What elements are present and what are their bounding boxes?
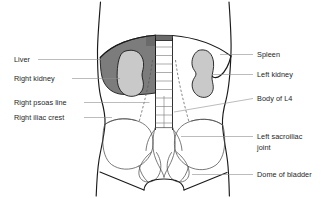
label-dome-of-bladder: Dome of bladder xyxy=(257,170,312,179)
liver-medial-shadow xyxy=(146,35,156,46)
spine-diaphragm-cap xyxy=(156,35,173,40)
label-left-sacroiliac-joint-line1: Left sacroiliac xyxy=(257,132,303,141)
right-body-outline xyxy=(222,2,231,196)
right-iliac-wing xyxy=(103,119,153,169)
left-superior-pubic-ramus xyxy=(180,167,189,183)
right-superior-pubic-ramus xyxy=(139,166,148,182)
pelvic-floor-line-left xyxy=(184,173,227,191)
left-iliac-wing xyxy=(174,119,224,169)
left-obturator-foramen xyxy=(167,152,189,182)
label-right-psoas-line: Right psoas line xyxy=(14,98,67,107)
right-kidney-shape xyxy=(117,50,143,96)
labels-right-group: Spleen Left kidney Body of L4 Left sacro… xyxy=(256,50,312,179)
label-right-iliac-crest: Right iliac crest xyxy=(14,113,64,122)
pelvis-group xyxy=(103,119,225,182)
pelvic-floor-line-right xyxy=(100,172,144,190)
label-left-sacroiliac-joint-line2: joint xyxy=(256,143,271,152)
label-liver: Liver xyxy=(14,55,31,64)
dome-of-bladder xyxy=(144,179,184,190)
left-psoas-line xyxy=(176,60,190,122)
label-left-kidney: Left kidney xyxy=(257,70,293,79)
left-kidney-shape xyxy=(192,50,214,98)
label-right-kidney: Right kidney xyxy=(14,74,55,83)
leader-body-of-l4 xyxy=(174,99,253,113)
label-body-of-l4: Body of L4 xyxy=(257,94,292,103)
anatomy-diagram: Liver Right kidney Right psoas line Righ… xyxy=(0,0,327,198)
diagram-canvas: Liver Right kidney Right psoas line Righ… xyxy=(0,0,327,198)
kidneys-group xyxy=(117,50,214,98)
label-spleen: Spleen xyxy=(257,50,280,59)
sacrum xyxy=(153,128,175,178)
left-iliac-crest xyxy=(192,119,223,125)
right-iliac-crest xyxy=(105,119,136,125)
left-body-outline xyxy=(96,2,105,196)
labels-left-group: Liver Right kidney Right psoas line Righ… xyxy=(14,55,67,122)
lumbar-spine-group xyxy=(156,38,173,130)
